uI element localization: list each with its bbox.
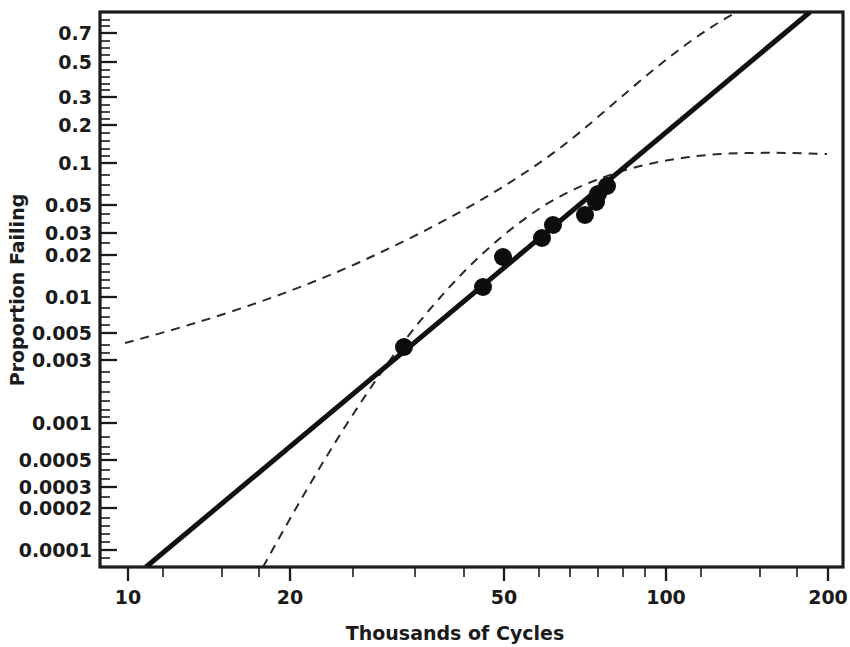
plot-canvas: 0.7 0.5 0.3 0.2 0.1 0.05 0.03 0.02 0.01 … — [0, 0, 850, 647]
y-tick-label: 0.0003 — [19, 476, 92, 498]
x-axis-tick-labels: 10 20 50 100 200 — [115, 586, 848, 608]
y-tick-label: 0.0005 — [19, 449, 92, 471]
y-tick-label: 0.2 — [58, 114, 92, 136]
x-tick-label: 20 — [277, 586, 303, 608]
data-point — [598, 177, 616, 195]
x-tick-label: 200 — [808, 586, 848, 608]
data-point — [395, 338, 413, 356]
upper-confidence-band — [125, 12, 737, 343]
y-tick-label: 0.1 — [58, 152, 92, 174]
y-tick-label: 0.5 — [58, 51, 92, 73]
data-point — [474, 278, 492, 296]
x-tick-label: 100 — [646, 586, 686, 608]
lower-confidence-band — [263, 153, 827, 567]
data-point — [494, 248, 512, 266]
y-tick-label: 0.003 — [32, 349, 92, 371]
weibull-probability-plot-figure: 0.7 0.5 0.3 0.2 0.1 0.05 0.03 0.02 0.01 … — [0, 0, 850, 647]
x-tick-label: 50 — [491, 586, 517, 608]
y-axis-title: Proportion Failing — [6, 194, 28, 387]
y-tick-label: 0.0001 — [19, 539, 92, 561]
plot-frame — [100, 12, 843, 567]
x-tick-label: 10 — [115, 586, 141, 608]
y-tick-label: 0.3 — [58, 86, 92, 108]
y-tick-label: 0.001 — [32, 412, 92, 434]
x-axis-title: Thousands of Cycles — [346, 622, 564, 644]
x-axis-major-ticks — [128, 567, 828, 581]
y-tick-label: 0.02 — [45, 244, 92, 266]
data-point — [544, 216, 562, 234]
y-tick-label: 0.05 — [45, 194, 92, 216]
y-tick-label: 0.0002 — [19, 497, 92, 519]
y-tick-label: 0.005 — [32, 322, 92, 344]
y-tick-label: 0.7 — [58, 22, 92, 44]
y-tick-label: 0.03 — [45, 222, 92, 244]
y-axis-tick-labels: 0.7 0.5 0.3 0.2 0.1 0.05 0.03 0.02 0.01 … — [19, 22, 92, 561]
y-tick-label: 0.01 — [45, 286, 92, 308]
y-axis-major-ticks — [100, 33, 117, 550]
